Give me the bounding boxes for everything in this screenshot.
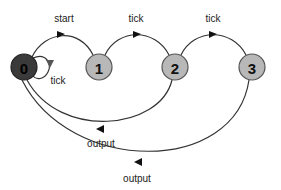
arrowhead-icon bbox=[57, 31, 65, 38]
arrowhead-icon bbox=[134, 158, 142, 166]
edge-label-output-3-0: output bbox=[123, 173, 151, 184]
state-label-2: 2 bbox=[171, 60, 179, 77]
state-diagram: start tick tick tick output output 0 1 2 bbox=[0, 0, 281, 190]
state-label-3: 3 bbox=[248, 60, 256, 77]
edge-tick-self-0: tick bbox=[33, 56, 67, 86]
state-node-3: 3 bbox=[239, 54, 265, 80]
arrowhead-icon bbox=[46, 60, 54, 68]
state-node-0: 0 bbox=[11, 54, 37, 80]
edge-label-tick-2-3: tick bbox=[206, 13, 222, 24]
state-node-2: 2 bbox=[162, 54, 188, 80]
arrowhead-icon bbox=[133, 31, 141, 38]
state-node-1: 1 bbox=[86, 54, 112, 80]
edge-label-tick-1-2: tick bbox=[129, 13, 145, 24]
edge-tick-1-2: tick bbox=[105, 13, 169, 55]
edge-output-3-0: output bbox=[22, 80, 249, 184]
edge-start-0-1: start bbox=[32, 13, 93, 57]
arrowhead-icon bbox=[209, 31, 217, 38]
arrowhead-icon bbox=[96, 125, 104, 133]
state-label-1: 1 bbox=[95, 60, 103, 77]
state-label-0: 0 bbox=[20, 60, 28, 77]
edge-label-tick-self: tick bbox=[51, 75, 67, 86]
edge-label-start: start bbox=[54, 13, 74, 24]
edge-tick-2-3: tick bbox=[181, 13, 246, 55]
